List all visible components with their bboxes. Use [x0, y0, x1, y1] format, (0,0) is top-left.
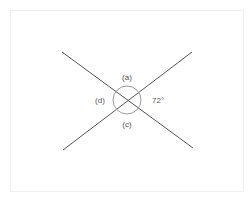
label-angle-a: (a) — [122, 73, 132, 82]
label-angle-c: (c) — [122, 120, 132, 129]
angle-diagram: (a) 72° (c) (d) — [0, 0, 251, 202]
label-angle-b: 72° — [152, 96, 164, 105]
label-angle-d: (d) — [95, 96, 105, 105]
